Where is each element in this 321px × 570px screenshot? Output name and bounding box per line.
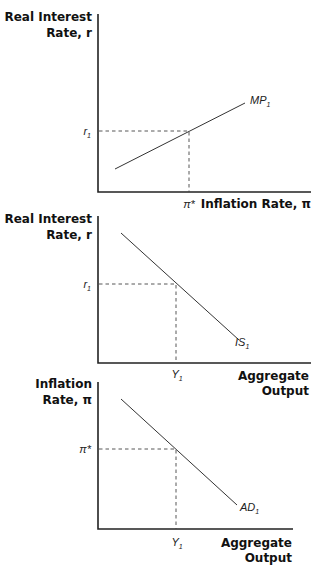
x-tick-label: Y1 — [171, 368, 182, 382]
y-axis-label-line2: Rate, r — [46, 228, 92, 242]
axes — [98, 216, 311, 363]
y-axis-label-line2: Rate, r — [46, 26, 92, 40]
x-axis-label-line1: Aggregate — [238, 369, 309, 383]
x-axis-label-line1: Aggregate — [221, 536, 292, 550]
curve-label: MP1 — [250, 94, 271, 108]
panel-is: Real Interest Rate, r IS1 r1 Y1 Aggregat… — [4, 212, 311, 398]
guide-lines — [99, 131, 189, 192]
three-panel-diagram: Real Interest Rate, r MP1 r1 π* Inflatio… — [0, 0, 321, 570]
x-axis-label-line2: Output — [262, 384, 310, 398]
x-tick-label: π* — [183, 198, 195, 210]
y-axis-label-line1: Inflation — [35, 377, 92, 391]
guide-lines — [99, 284, 176, 363]
curve-label: IS1 — [235, 336, 249, 350]
y-axis-label-text: Rate, r — [46, 26, 92, 40]
curve-label: AD1 — [239, 501, 259, 515]
mp-curve — [115, 103, 245, 169]
y-axis-label-line1: Real Interest — [4, 10, 92, 24]
x-axis-label: Inflation Rate, π — [201, 197, 311, 211]
panel-ad: Inflation Rate, π AD1 π* Y1 Aggregate Ou… — [35, 377, 293, 565]
is-curve — [121, 233, 239, 340]
y-tick-label: r1 — [83, 125, 91, 139]
guide-lines — [99, 449, 176, 529]
x-axis-label-line2: Output — [245, 551, 293, 565]
panel-mp: Real Interest Rate, r MP1 r1 π* Inflatio… — [4, 10, 311, 211]
x-tick-label: Y1 — [171, 536, 182, 550]
y-tick-label: π* — [79, 443, 91, 455]
y-axis-label-line1: Real Interest — [4, 212, 92, 226]
y-axis-label-line2: Rate, π — [43, 393, 92, 407]
y-tick-label: r1 — [83, 278, 91, 292]
ad-curve — [121, 399, 237, 505]
axes — [98, 14, 311, 192]
